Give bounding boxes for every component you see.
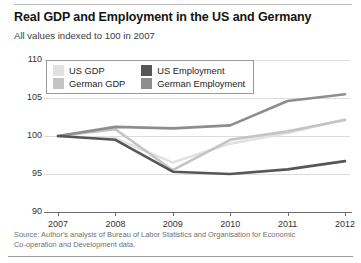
legend-swatch-icon: [53, 78, 64, 89]
legend-item-german-employment: German Employment: [141, 78, 245, 89]
top-divider: [14, 4, 352, 5]
chart-subtitle: All values indexed to 100 in 2007: [14, 30, 344, 42]
legend-item-german-gdp: German GDP: [53, 78, 125, 89]
source-line-1: Source: Author's analysis of Bureau of L…: [14, 230, 349, 240]
source-note: Source: Author's analysis of Bureau of L…: [14, 230, 349, 249]
legend-label: German GDP: [69, 79, 125, 89]
legend-label: US Employment: [157, 66, 224, 76]
legend-label: US GDP: [69, 66, 105, 76]
legend-item-us-gdp: US GDP: [53, 65, 125, 76]
legend-swatch-icon: [53, 65, 64, 76]
chart-title: Real GDP and Employment in the US and Ge…: [14, 10, 354, 25]
legend-label: German Employment: [157, 79, 245, 89]
legend-swatch-icon: [141, 78, 152, 89]
source-line-2: Co-operation and Development data.: [14, 240, 349, 250]
chart-figure: Real GDP and Employment in the US and Ge…: [0, 0, 361, 263]
plot-area: 1101051009590 200720082009201020112012 U…: [14, 50, 352, 225]
bottom-divider: [8, 256, 353, 257]
legend-swatch-icon: [141, 65, 152, 76]
legend-item-us-employment: US Employment: [141, 65, 245, 76]
chart-legend: US GDPUS EmploymentGerman GDPGerman Empl…: [46, 60, 254, 94]
